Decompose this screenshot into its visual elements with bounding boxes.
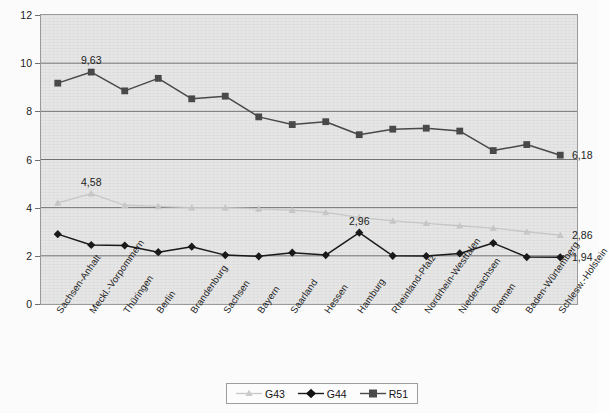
legend-label-r51: R51 bbox=[389, 388, 408, 400]
legend-marker-g43 bbox=[236, 385, 262, 403]
x-tick-label: Berlin bbox=[154, 288, 177, 315]
x-tick-label: Thüringen bbox=[121, 273, 155, 315]
x-tick-label: Saarland bbox=[288, 277, 319, 315]
legend-item[interactable]: G43 bbox=[236, 385, 285, 403]
legend-label-g44: G44 bbox=[327, 388, 347, 400]
legend-marker-r51 bbox=[360, 385, 386, 403]
x-tick-label: Hamburg bbox=[355, 276, 387, 315]
legend-item[interactable]: R51 bbox=[360, 385, 408, 403]
x-tick-label: Sachsen bbox=[221, 278, 252, 315]
x-tick-label: Hessen bbox=[322, 282, 350, 315]
legend-label-g43: G43 bbox=[265, 388, 285, 400]
x-tick-label: Bayern bbox=[255, 284, 282, 316]
legend-item[interactable]: G44 bbox=[298, 385, 347, 403]
x-tick-label: Bremen bbox=[489, 281, 518, 315]
x-tick-label: Nordrhein-Westfalen bbox=[422, 236, 482, 316]
legend-marker-g44 bbox=[298, 385, 324, 403]
chart-legend: G43 G44 R51 bbox=[226, 383, 418, 404]
